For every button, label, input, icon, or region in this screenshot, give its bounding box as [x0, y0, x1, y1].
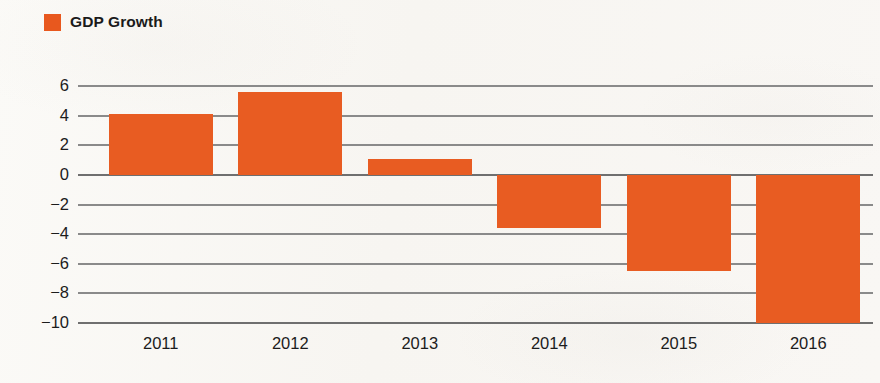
- chart-legend: GDP Growth: [44, 13, 163, 31]
- x-tick-label-2014: 2014: [531, 334, 568, 353]
- y-tick-label: −4: [50, 224, 69, 243]
- y-tick-label: 4: [60, 106, 69, 125]
- legend-label: GDP Growth: [70, 13, 163, 31]
- x-tick-label-2012: 2012: [272, 334, 309, 353]
- y-tick-label: −2: [50, 195, 69, 214]
- bar-2013: [368, 159, 472, 175]
- x-tick-label-2015: 2015: [660, 334, 697, 353]
- gdp-growth-bar-chart: GDP Growth 6420−2−4−6−8−10 2011201220132…: [0, 0, 880, 383]
- bar-2016: [756, 175, 860, 323]
- x-tick-label-2011: 2011: [143, 334, 178, 353]
- y-tick-label: 2: [60, 135, 69, 154]
- x-tick-label-2013: 2013: [401, 334, 438, 353]
- x-tick-label-2016: 2016: [790, 334, 827, 353]
- y-tick-label: −6: [50, 254, 69, 273]
- bar-2014: [497, 175, 601, 228]
- y-tick-label: 0: [60, 165, 69, 184]
- bar-2011: [109, 114, 213, 175]
- bar-2012: [238, 92, 342, 175]
- plot-area: 6420−2−4−6−8−10 201120122013201420152016: [78, 86, 873, 323]
- legend-color-swatch: [44, 14, 61, 31]
- bar-2015: [627, 175, 731, 271]
- bar-series: [96, 86, 873, 323]
- y-tick-label: 6: [60, 76, 69, 95]
- y-tick-label: −8: [50, 283, 69, 302]
- y-tick-label: −10: [41, 313, 69, 332]
